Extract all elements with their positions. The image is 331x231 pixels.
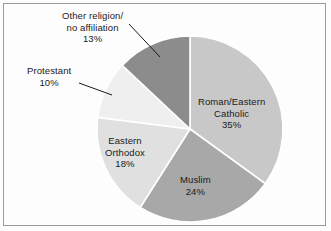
slice-label-line1: Protestant (27, 65, 71, 77)
slice-label-roman-eastern-catholic: Roman/Eastern Catholic 35% (198, 96, 265, 131)
slice-value-muslim: 24% (180, 186, 211, 198)
slice-label-protestant: Protestant 10% (27, 65, 71, 88)
slice-label-line1: Muslim (180, 174, 211, 186)
slice-label-line1: Other religion/ (62, 10, 123, 22)
slice-label-line2: Catholic (198, 108, 265, 120)
slice-value-other-religion: 13% (62, 33, 123, 45)
pie-chart-canvas (0, 0, 331, 231)
slice-label-eastern-orthodox: Eastern Orthodox 18% (105, 135, 145, 170)
slice-label-line1: Eastern (105, 135, 145, 147)
slice-label-line2: Orthodox (105, 147, 145, 159)
slice-value-roman-eastern-catholic: 35% (198, 119, 265, 131)
slice-label-line1: Roman/Eastern (198, 96, 265, 108)
pie-chart-figure: Roman/Eastern Catholic 35% Muslim 24% Ea… (0, 0, 331, 231)
slice-label-muslim: Muslim 24% (180, 174, 211, 197)
slice-label-other-religion: Other religion/ no affiliation 13% (62, 10, 123, 45)
slice-value-protestant: 10% (27, 77, 71, 89)
slice-label-line2: no affiliation (62, 22, 123, 34)
slice-value-eastern-orthodox: 18% (105, 158, 145, 170)
